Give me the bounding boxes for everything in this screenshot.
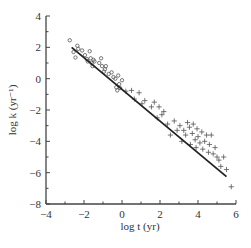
circle-marker — [100, 64, 103, 67]
plus-marker — [190, 131, 195, 136]
plus-marker — [199, 129, 204, 134]
plus-marker — [221, 154, 226, 159]
y-ticks: 420−2−4−6−8 — [29, 10, 50, 210]
x-tick-label: 6 — [233, 208, 239, 220]
x-tick-label: 4 — [195, 208, 201, 220]
circle-marker — [104, 64, 107, 67]
plus-marker — [200, 147, 205, 152]
circle-marker — [68, 39, 71, 42]
y-tick-label: 0 — [36, 73, 42, 85]
plus-marker — [129, 88, 134, 93]
plus-marker — [172, 118, 177, 123]
plus-marker — [191, 122, 196, 127]
plus-marker — [185, 120, 190, 125]
x-tick-label: −4 — [40, 208, 52, 220]
plus-marker — [213, 145, 218, 150]
circle-marker — [120, 79, 123, 82]
circle-marker — [98, 61, 101, 64]
plus-marker — [195, 134, 200, 139]
y-tick-label: −4 — [29, 135, 41, 147]
circle-marker — [88, 50, 91, 53]
circle-marker — [80, 49, 83, 52]
y-tick-label: −6 — [29, 167, 41, 179]
plus-marker — [187, 125, 192, 130]
x-tick-label: 2 — [157, 208, 163, 220]
plus-marker — [206, 150, 211, 155]
plus-marker — [175, 128, 180, 133]
plus-marker — [156, 104, 161, 109]
plus-marker — [181, 128, 186, 133]
circle-marker — [99, 57, 102, 60]
circle-marker — [110, 71, 113, 74]
x-ticks: −4−20246 — [40, 200, 239, 220]
y-tick-label: −2 — [29, 104, 41, 116]
y-tick-label: 4 — [36, 10, 42, 22]
plus-marker — [211, 151, 216, 156]
x-axis-label: log t (yr) — [120, 220, 159, 233]
circle-marker — [77, 47, 80, 50]
regression-line — [72, 47, 227, 176]
y-axis-label: log k (yr⁻¹) — [6, 84, 19, 135]
plus-marker — [149, 104, 154, 109]
plus-marker — [218, 164, 223, 169]
plus-marker — [137, 90, 142, 95]
scatter-chart: 420−2−4−6−8 −4−20246 log k (yr⁻¹) log t … — [0, 0, 251, 248]
plus-marker — [204, 132, 209, 137]
plus-marker — [224, 167, 229, 172]
plus-marker — [202, 139, 207, 144]
circle-marker — [117, 74, 120, 77]
plus-marker — [229, 184, 234, 189]
plus-marker — [194, 126, 199, 131]
plus-marker — [168, 132, 173, 137]
plus-marker — [177, 123, 182, 128]
plus-marker — [193, 137, 198, 142]
plus-marker — [142, 98, 147, 103]
x-tick-label: 0 — [119, 208, 125, 220]
x-tick-label: −2 — [78, 208, 90, 220]
plus-marker — [209, 132, 214, 137]
plus-marker — [207, 142, 212, 147]
plus-marker — [152, 100, 157, 105]
axes: 420−2−4−6−8 −4−20246 — [29, 10, 239, 220]
plus-marker — [183, 132, 188, 137]
plus-marker — [197, 140, 202, 145]
y-tick-label: 2 — [36, 41, 42, 53]
circle-marker — [74, 56, 77, 59]
